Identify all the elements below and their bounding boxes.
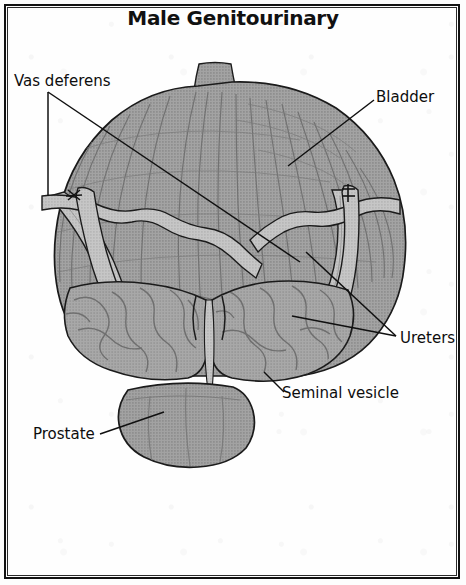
figure-page: Male Genitourinary <box>0 0 466 585</box>
prostate-gland <box>118 383 254 467</box>
label-seminal-vesicle: Seminal vesicle <box>282 384 399 402</box>
label-vas-deferens: Vas deferens <box>14 72 111 90</box>
label-prostate: Prostate <box>33 425 95 443</box>
midline-sulcus <box>204 300 214 392</box>
label-bladder: Bladder <box>376 88 434 106</box>
label-ureters: Ureters <box>400 329 455 347</box>
